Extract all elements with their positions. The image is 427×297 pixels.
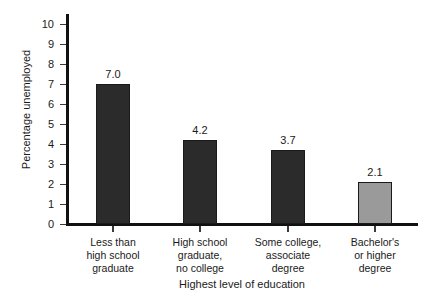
x-axis-category-label-line: Bachelor's — [331, 236, 419, 249]
x-axis-category-label-line: or higher — [331, 249, 419, 262]
y-axis-tick-label: 0 — [30, 219, 54, 230]
x-axis-category-label-line: Less than — [69, 236, 157, 249]
bar — [183, 140, 217, 224]
y-axis-tick-label: 8 — [30, 59, 54, 70]
bar-value-label: 7.0 — [83, 68, 143, 80]
x-axis-category-label-line: High school — [156, 236, 244, 249]
x-axis-category-label-line: Some college, — [244, 236, 332, 249]
bar — [271, 150, 305, 224]
y-axis-tick-label: 1 — [30, 199, 54, 210]
bar-chart-figure: Percentage unemployed 109876543210 7.0Le… — [0, 0, 427, 297]
y-axis-tick-label: 6 — [30, 99, 54, 110]
y-axis-tick-label: 3 — [30, 159, 54, 170]
x-axis-category-label: Bachelor'sor higherdegree — [331, 236, 419, 275]
x-axis-category-label-line: no college — [156, 262, 244, 275]
y-axis-tick-label: 5 — [30, 119, 54, 130]
y-axis-tick-label: 10 — [30, 19, 54, 30]
bar — [358, 182, 392, 224]
x-axis-category-label-line: high school — [69, 249, 157, 262]
bar — [96, 84, 130, 224]
x-axis-tick — [199, 226, 201, 232]
x-axis-category-label-line: graduate — [69, 262, 157, 275]
x-axis-category-label-line: associate — [244, 249, 332, 262]
x-axis-tick — [374, 226, 376, 232]
y-axis-tick-label: 4 — [30, 139, 54, 150]
x-axis-title: Highest level of education — [66, 278, 418, 290]
x-axis-category-label-line: graduate, — [156, 249, 244, 262]
bar-value-label: 4.2 — [170, 124, 230, 136]
x-axis-category-label: High schoolgraduate,no college — [156, 236, 244, 275]
y-axis-line — [66, 14, 69, 225]
y-axis-tick-label: 2 — [30, 179, 54, 190]
x-axis-category-label-line: degree — [244, 262, 332, 275]
x-axis-tick — [287, 226, 289, 232]
x-axis-category-label: Some college,associatedegree — [244, 236, 332, 275]
y-axis-tick-label: 9 — [30, 39, 54, 50]
x-axis-category-label-line: degree — [331, 262, 419, 275]
bar-value-label: 2.1 — [345, 166, 405, 178]
bar-value-label: 3.7 — [258, 134, 318, 146]
plot-area: Percentage unemployed 109876543210 7.0Le… — [0, 0, 427, 297]
x-axis-tick — [112, 226, 114, 232]
x-axis-category-label: Less thanhigh schoolgraduate — [69, 236, 157, 275]
y-axis-tick-label: 7 — [30, 79, 54, 90]
